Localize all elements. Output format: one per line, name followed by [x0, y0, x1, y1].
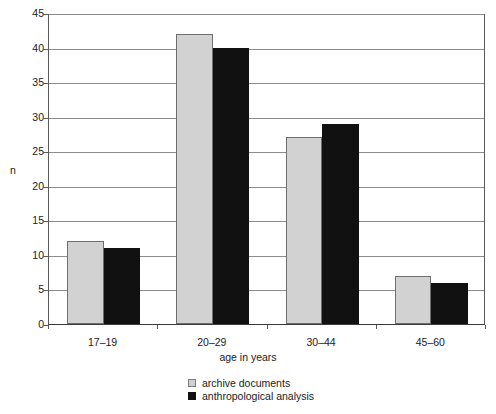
y-tick-label: 35 — [4, 77, 44, 88]
bar-anthropological-analysis-0 — [104, 248, 141, 324]
y-tick-label: 5 — [4, 284, 44, 295]
x-tick-mark — [157, 325, 158, 329]
bar-archive-documents-1 — [176, 34, 213, 324]
bar-archive-documents-3 — [395, 276, 432, 324]
x-tick-label: 20–29 — [162, 336, 262, 348]
x-tick-mark — [485, 325, 486, 329]
x-tick-label: 17–19 — [53, 336, 153, 348]
legend-label: archive documents — [202, 377, 290, 389]
y-tick-label: 0 — [4, 319, 44, 330]
plot-area — [48, 14, 485, 325]
bar-archive-documents-2 — [286, 137, 323, 324]
x-tick-mark — [376, 325, 377, 329]
gridline — [49, 221, 484, 222]
legend-label: anthropological analysis — [202, 390, 314, 402]
y-tick-label: 45 — [4, 8, 44, 19]
y-tick-label: 30 — [4, 112, 44, 123]
legend-item: anthropological analysis — [188, 390, 314, 402]
legend-item: archive documents — [188, 377, 314, 389]
legend-swatch-light-gray-icon — [188, 379, 196, 387]
x-tick-label: 30–44 — [271, 336, 371, 348]
bar-anthropological-analysis-3 — [431, 283, 468, 324]
bar-anthropological-analysis-1 — [213, 48, 250, 324]
y-tick-label: 40 — [4, 43, 44, 54]
x-tick-mark — [267, 325, 268, 329]
gridline — [49, 187, 484, 188]
bar-archive-documents-0 — [67, 241, 104, 324]
gridline — [49, 49, 484, 50]
x-axis-title: age in years — [0, 351, 496, 363]
legend: archive documentsanthropological analysi… — [188, 377, 314, 403]
x-tick-label: 45–60 — [380, 336, 480, 348]
gridline — [49, 14, 484, 15]
y-tick-label: 15 — [4, 215, 44, 226]
y-tick-label: 25 — [4, 146, 44, 157]
bar-chart: 051015202530354045 n 17–1920–2930–4445–6… — [0, 0, 496, 414]
legend-swatch-black-icon — [188, 392, 196, 400]
x-tick-mark — [48, 325, 49, 329]
gridline — [49, 83, 484, 84]
bar-anthropological-analysis-2 — [322, 124, 359, 324]
y-tick-label: 20 — [4, 181, 44, 192]
gridline — [49, 152, 484, 153]
y-axis-title: n — [10, 165, 16, 176]
gridline — [49, 118, 484, 119]
y-tick-label: 10 — [4, 250, 44, 261]
